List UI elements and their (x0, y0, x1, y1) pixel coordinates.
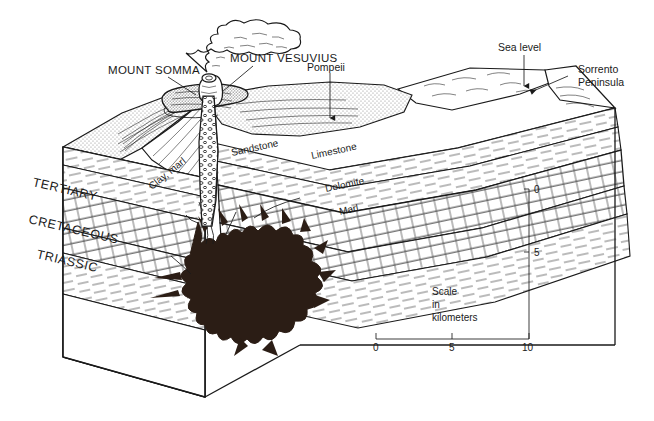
block-bottom-front-edge (205, 345, 300, 397)
scale-vtick-5: 5 (534, 247, 540, 258)
scale-htick-10: 10 (522, 342, 534, 353)
scale-vtick-0: 0 (534, 184, 540, 195)
label-sorrento-line2: Peninsula (578, 76, 624, 88)
scale-caption-line3: kilometers (432, 312, 478, 323)
scale-htick-5: 5 (449, 342, 455, 353)
label-sea-level: Sea level (498, 41, 541, 53)
label-sorrento-line1: Sorrento (578, 63, 618, 75)
vesuvius-crater (202, 74, 216, 82)
label-pompeii: Pompeii (307, 61, 345, 73)
label-mount-somma: MOUNT SOMMA (108, 64, 200, 76)
vesuvius-cross-section-svg: MOUNT SOMMA MOUNT VESUVIUS Pompeii Sea l… (0, 0, 654, 421)
scale-caption-line1: Scale (432, 286, 457, 297)
scale-caption-line2: in (432, 299, 440, 310)
scale-htick-0: 0 (373, 342, 379, 353)
eruption-plume (186, 20, 301, 72)
figure-root: MOUNT SOMMA MOUNT VESUVIUS Pompeii Sea l… (0, 0, 654, 421)
